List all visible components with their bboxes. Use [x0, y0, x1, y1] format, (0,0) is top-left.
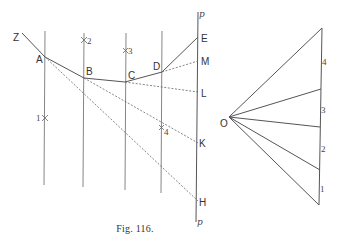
dashed-rays [45, 57, 198, 201]
funicular-polygon-figure: Z A B C D E M L K H p p 1 2 3 4 [0, 0, 338, 250]
label-K: K [199, 138, 206, 149]
label-H: H [199, 197, 206, 208]
force-line-4 [161, 31, 162, 193]
load-line [319, 28, 322, 205]
label-B: B [86, 66, 93, 77]
force-line-2 [83, 33, 84, 187]
pole-ray-0 [229, 28, 322, 117]
caption-text: Fig. 116. [116, 223, 153, 234]
label-M: M [201, 56, 209, 67]
label-Z: Z [13, 32, 19, 43]
label-A: A [36, 54, 43, 65]
force-labels: 1 2 3 4 [36, 36, 169, 137]
pole-ray-1 [229, 89, 321, 117]
funicular-polygon [22, 33, 198, 82]
point-labels: Z A B C D E M L K H p p [13, 9, 209, 227]
figure-caption: Fig. 116. [0, 223, 338, 234]
force-label-1: 1 [36, 113, 41, 123]
segment-label-3: 3 [321, 105, 326, 115]
ray-B-K [84, 78, 198, 143]
ray-A-H [45, 57, 198, 201]
force-line-1 [44, 31, 45, 185]
label-E: E [201, 33, 208, 44]
force-line-3 [125, 33, 126, 190]
pole-label-O: O [220, 118, 228, 129]
force-label-4: 4 [164, 127, 169, 137]
segment-label-1: 1 [320, 184, 325, 194]
label-p-top: p [199, 9, 205, 19]
label-L: L [201, 88, 207, 99]
segment-label-2: 2 [321, 144, 326, 154]
cross-marker-1 [42, 115, 48, 121]
force-label-3: 3 [128, 46, 133, 56]
force-polygon: O 4 3 2 1 [220, 28, 327, 205]
force-lines [44, 12, 198, 222]
segment-label-4: 4 [322, 57, 327, 67]
label-C: C [128, 70, 135, 81]
force-label-2: 2 [87, 36, 92, 46]
force-markers [42, 37, 164, 130]
line-p-p [196, 12, 198, 222]
label-D: D [153, 61, 160, 72]
